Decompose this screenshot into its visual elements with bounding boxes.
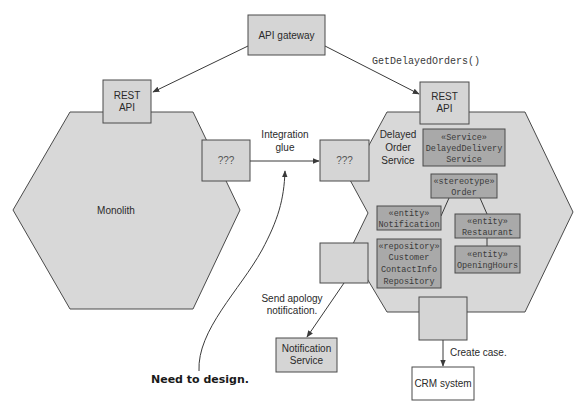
component-restaurant: «entity» Restaurant xyxy=(455,214,520,238)
component-delayed-delivery-service: «Service» DelayedDelivery Service xyxy=(423,129,505,166)
svg-text:API: API xyxy=(436,103,452,114)
svg-text:REST: REST xyxy=(114,90,141,101)
architecture-diagram: Monolith API gateway GetDelayedOrders() … xyxy=(0,0,575,416)
svg-text:Order: Order xyxy=(451,188,477,198)
svg-text:Notification: Notification xyxy=(282,343,331,354)
service-rest-api-box: REST API xyxy=(420,82,469,124)
crm-adapter-box xyxy=(419,297,467,340)
svg-text:???: ??? xyxy=(218,155,235,166)
create-case-label: Create case. xyxy=(450,347,507,358)
annotation-label: Need to design. xyxy=(151,373,249,386)
svg-text:Notification: Notification xyxy=(378,220,439,230)
svg-text:«entity»: «entity» xyxy=(467,250,508,260)
svg-text:Customer: Customer xyxy=(389,253,430,263)
integration-glue-label-line2: glue xyxy=(276,142,295,153)
gateway-to-monolith-arrow xyxy=(153,46,248,92)
component-notification: «entity» Notification xyxy=(377,206,441,230)
svg-text:Restaurant: Restaurant xyxy=(462,228,513,238)
send-apology-label-line1: Send apology xyxy=(261,293,322,304)
monolith-adapter-box: ??? xyxy=(202,140,250,181)
svg-text:REST: REST xyxy=(431,91,458,102)
svg-text:Service: Service xyxy=(290,355,324,366)
integration-glue-label-line1: Integration xyxy=(261,129,308,140)
notification-adapter-box xyxy=(320,243,368,283)
svg-text:«Service»: «Service» xyxy=(441,133,487,143)
svg-text:OpeningHours: OpeningHours xyxy=(457,261,518,271)
svg-text:???: ??? xyxy=(336,155,353,166)
svg-text:ContactInfo: ContactInfo xyxy=(381,265,437,275)
monolith-label: Monolith xyxy=(97,205,135,216)
notification-service-box: Notification Service xyxy=(276,338,337,372)
call-label: GetDelayedOrders() xyxy=(372,56,480,67)
api-gateway-box: API gateway xyxy=(248,15,325,55)
svg-text:DelayedDelivery: DelayedDelivery xyxy=(426,144,503,154)
service-name-line2: Order xyxy=(385,142,411,153)
svg-text:«entity»: «entity» xyxy=(389,209,430,219)
svg-text:CRM system: CRM system xyxy=(414,378,471,389)
svg-text:Repository: Repository xyxy=(383,277,434,287)
component-order: «stereotype» Order xyxy=(431,174,497,198)
svg-text:«repository»: «repository» xyxy=(378,242,439,252)
send-apology-label-line2: notification. xyxy=(267,305,318,316)
component-opening-hours: «entity» OpeningHours xyxy=(455,246,520,273)
service-adapter-box: ??? xyxy=(320,140,369,181)
svg-text:API: API xyxy=(119,102,135,113)
svg-text:«stereotype»: «stereotype» xyxy=(433,177,494,187)
svg-text:API gateway: API gateway xyxy=(258,30,314,41)
svg-text:Service: Service xyxy=(446,155,482,165)
service-name-line3: Service xyxy=(381,155,415,166)
monolith-rest-api-box: REST API xyxy=(103,80,151,123)
component-customer-contact-info-repository: «repository» Customer ContactInfo Reposi… xyxy=(377,239,441,288)
svg-text:«entity»: «entity» xyxy=(467,217,508,227)
crm-system-box: CRM system xyxy=(412,367,474,400)
service-name-line1: Delayed xyxy=(380,129,417,140)
gateway-to-service-arrow xyxy=(325,46,419,94)
